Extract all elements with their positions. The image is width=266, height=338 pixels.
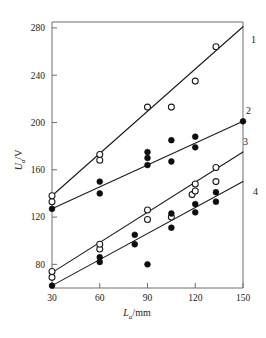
y-axis-title: Ua/V: [13, 149, 27, 171]
data-point-series-2: [168, 159, 174, 165]
data-point-series-3: [192, 181, 198, 187]
data-point-series-3: [145, 207, 151, 213]
x-axis-title: La/mm: [122, 307, 151, 321]
tick-labels: 80120160200240280306090120150: [31, 23, 251, 303]
x-tick-label: 90: [143, 293, 153, 303]
data-point-series-1: [192, 78, 198, 84]
scatter-plot: 80120160200240280306090120150 1234 La/mm…: [0, 0, 266, 338]
data-point-series-1: [49, 193, 55, 199]
data-point-series-1: [97, 157, 103, 163]
data-point-series-4: [132, 232, 138, 238]
y-tick-label: 280: [31, 23, 46, 33]
data-point-series-2: [49, 206, 55, 212]
data-point-series-4: [145, 261, 151, 267]
data-point-series-3: [97, 241, 103, 247]
data-point-series-1: [168, 104, 174, 110]
curve-label-4: 4: [253, 186, 258, 197]
data-point-series-4: [49, 283, 55, 289]
data-point-series-4: [213, 189, 219, 195]
data-point-series-2: [145, 162, 151, 168]
y-tick-label: 200: [31, 118, 46, 128]
y-axis-title-group: Ua/V: [13, 149, 27, 171]
data-point-series-4: [132, 241, 138, 247]
data-point-series-3: [49, 274, 55, 280]
data-point-series-2: [168, 137, 174, 143]
y-tick-label: 120: [31, 212, 46, 222]
curve-label-3: 3: [243, 136, 248, 147]
data-point-series-3: [145, 216, 151, 222]
y-tick-label: 80: [36, 260, 46, 270]
x-tick-label: 150: [236, 293, 251, 303]
data-point-series-2: [240, 118, 246, 124]
data-point-series-1: [49, 199, 55, 205]
y-tick-label: 240: [31, 71, 46, 81]
curve-label-2: 2: [246, 105, 251, 116]
fit-line-4: [52, 182, 243, 286]
x-tick-label: 60: [95, 293, 105, 303]
curve-label-1: 1: [251, 34, 256, 45]
data-point-series-1: [97, 151, 103, 157]
chart-figure: 80120160200240280306090120150 1234 La/mm…: [0, 0, 266, 338]
x-tick-label: 120: [188, 293, 203, 303]
data-point-series-2: [145, 155, 151, 161]
data-point-series-2: [97, 179, 103, 185]
data-point-series-1: [213, 44, 219, 50]
data-point-series-4: [213, 199, 219, 205]
data-point-series-2: [145, 149, 151, 155]
data-point-series-3: [213, 164, 219, 170]
data-point-series-4: [97, 254, 103, 260]
data-point-series-4: [168, 225, 174, 231]
data-markers: [49, 44, 246, 289]
data-point-series-2: [192, 144, 198, 150]
data-point-series-3: [49, 268, 55, 274]
data-point-series-2: [97, 191, 103, 197]
y-tick-label: 160: [31, 165, 46, 175]
data-point-series-4: [192, 201, 198, 207]
x-tick-label: 30: [47, 293, 57, 303]
data-point-series-2: [192, 134, 198, 140]
data-point-series-3: [192, 188, 198, 194]
curve-labels: 1234: [243, 34, 258, 197]
data-point-series-4: [168, 211, 174, 217]
data-point-series-3: [213, 179, 219, 185]
data-point-series-1: [145, 104, 151, 110]
data-point-series-4: [192, 209, 198, 215]
